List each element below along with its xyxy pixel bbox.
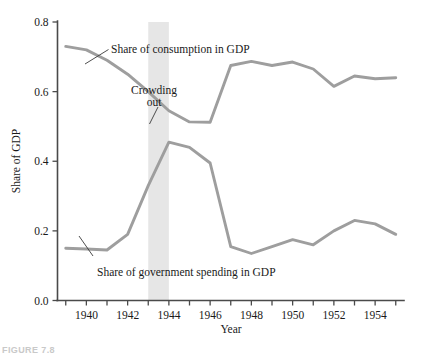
x-tick-label: 1940 [75,309,98,321]
x-tick-label: 1942 [116,309,139,321]
x-tick-label: 1944 [157,309,180,321]
x-tick-label: 1952 [322,309,345,321]
leader-line-government-spending [79,236,93,256]
figure-container: 0.00.20.40.60.8 194019421944194619481950… [0,0,427,357]
y-tick-label: 0.0 [34,295,49,307]
x-axis-tick-labels: 19401942194419461948195019521954 [75,309,387,321]
y-tick-label: 0.8 [34,16,49,28]
chart-canvas: 0.00.20.40.60.8 194019421944194619481950… [0,0,427,357]
y-axis-tick-labels: 0.00.20.40.60.8 [34,16,49,307]
annotation-crowding-out-line2: out [147,96,163,108]
y-tick-label: 0.4 [34,155,49,167]
line-series-consumption [66,46,396,122]
y-tick-label: 0.2 [34,225,49,237]
y-axis-title: Share of GDP [10,129,22,194]
x-tick-label: 1946 [199,309,222,321]
line-series-government-spending [66,142,396,253]
x-tick-label: 1954 [364,309,387,321]
figure-caption: FIGURE 7.8 [2,345,55,356]
x-tick-label: 1948 [240,309,263,321]
x-tick-label: 1950 [281,309,304,321]
y-tick-label: 0.6 [34,86,49,98]
x-axis-title: Year [220,323,241,335]
annotation-government-spending-label: Share of government spending in GDP [97,266,276,279]
annotation-consumption-label: Share of consumption in GDP [111,43,250,56]
